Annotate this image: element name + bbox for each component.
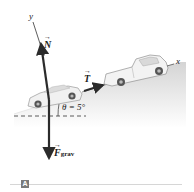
x-axis-label: x <box>176 57 180 66</box>
tension-force-label: T <box>84 74 90 84</box>
normal-force-symbol: N <box>44 40 51 50</box>
gravity-force-symbol: F <box>54 148 61 158</box>
panel-label: A <box>21 180 29 188</box>
normal-force-label: N <box>44 40 51 50</box>
gravity-force-label: Fgrav <box>54 148 74 158</box>
y-axis-label: y <box>29 12 33 21</box>
free-body-diagram: y x N T Fgrav θ = 5° A <box>0 0 194 192</box>
diagram-svg <box>0 0 194 192</box>
gravity-force-subscript: grav <box>61 150 75 158</box>
panel-divider <box>10 184 182 185</box>
angle-label: θ = 5° <box>62 103 85 112</box>
tension-force-symbol: T <box>84 74 90 84</box>
